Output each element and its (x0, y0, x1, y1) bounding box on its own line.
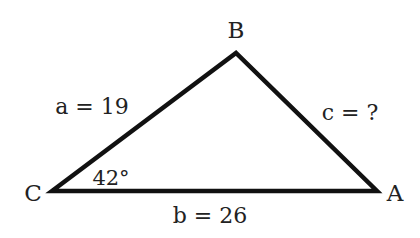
side-label-b: b = 26 (173, 203, 248, 228)
triangle-diagram: B C A a = 19 c = ? b = 26 42° (0, 0, 420, 238)
angle-label-c: 42° (92, 166, 129, 190)
vertex-label-b: B (228, 17, 245, 43)
vertex-label-a: A (386, 180, 404, 206)
side-label-c: c = ? (322, 100, 379, 125)
side-label-a: a = 19 (55, 94, 129, 119)
vertex-label-c: C (24, 180, 42, 206)
